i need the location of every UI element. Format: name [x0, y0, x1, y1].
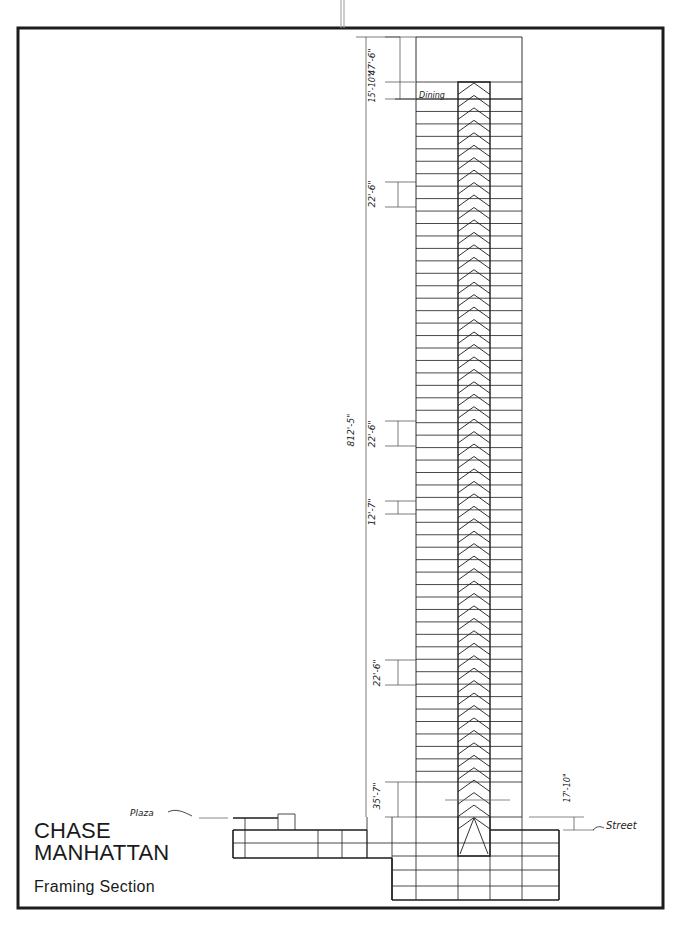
core-chevron [458, 755, 490, 766]
core-chevron [458, 444, 490, 455]
core-chevron [458, 95, 490, 106]
core-chevron [458, 631, 490, 642]
core-chevron [458, 718, 490, 729]
core-chevron [458, 195, 490, 206]
core-chevron [458, 183, 490, 194]
core-chevron [458, 668, 490, 679]
core-chevron [458, 232, 490, 243]
core-chevron [458, 593, 490, 604]
core-chevron [458, 457, 490, 468]
plaza-leader [168, 810, 192, 816]
core-chevron [458, 307, 490, 318]
core-chevron [458, 369, 490, 380]
core-chevron [458, 432, 490, 443]
street-leader [593, 827, 604, 830]
core-chevron [458, 83, 490, 94]
dim-lobby: 35'-7" [372, 782, 382, 809]
plaza-label: Plaza [130, 808, 154, 818]
dim-mech-middle: 22'-6" [367, 420, 377, 447]
core-chevron [458, 270, 490, 281]
dim-typical-floor: 12'-7" [367, 498, 377, 525]
core-chevron [458, 208, 490, 219]
dim-dining-floor: 15'-10" [368, 73, 377, 102]
core-chevron [458, 519, 490, 530]
core-chevron [458, 245, 490, 256]
dim-overall-height: 812'-5" [346, 414, 356, 447]
core-chevron [458, 257, 490, 268]
title-line-2: MANHATTAN [34, 842, 169, 864]
framing-section-drawing: Dining Plaza Street 812'-5" 47'-6" 15'-1… [0, 0, 686, 927]
title-block: CHASE MANHATTAN Framing Section [34, 820, 169, 896]
core-chevron [458, 170, 490, 181]
core-chevron [458, 295, 490, 306]
core-chevron [458, 494, 490, 505]
core-chevron [458, 108, 490, 119]
street-label: Street [606, 820, 638, 831]
core-chevron [458, 145, 490, 156]
core-chevron [458, 282, 490, 293]
dim-street-to-plaza: 17'-10" [563, 773, 572, 802]
core-chevron [458, 419, 490, 430]
dim-top-mech: 47'-6" [367, 48, 377, 75]
core-chevron [458, 120, 490, 131]
core-chevron [458, 531, 490, 542]
core-chevron [458, 618, 490, 629]
core-chevron [458, 357, 490, 368]
title-line-1: CHASE [34, 820, 169, 842]
core-chevron [458, 332, 490, 343]
core-chevron [458, 643, 490, 654]
core-chevron [458, 581, 490, 592]
core-chevron [458, 818, 490, 829]
core-chevron [458, 158, 490, 169]
core-chevron [458, 394, 490, 405]
dim-mech-upper: 22'-6" [367, 180, 377, 207]
drawing-subtitle: Framing Section [34, 878, 169, 896]
core-chevron [458, 681, 490, 692]
core-chevron [458, 569, 490, 580]
tower-section [168, 37, 604, 900]
core-chevron [458, 469, 490, 480]
core-chevron [458, 220, 490, 231]
core-chevron [458, 693, 490, 704]
dim-mech-lower: 22'-6" [372, 659, 382, 686]
core-chevron [458, 556, 490, 567]
core-chevron [458, 706, 490, 717]
core-chevron [458, 743, 490, 754]
core-chevron [458, 544, 490, 555]
core-chevron [458, 768, 490, 779]
core-chevron [458, 606, 490, 617]
core-chevron [458, 407, 490, 418]
core-chevron [458, 656, 490, 667]
dining-label: Dining [419, 91, 445, 100]
core-chevron [458, 805, 490, 816]
core-chevron [458, 344, 490, 355]
core-chevron [458, 382, 490, 393]
core-chevron [458, 506, 490, 517]
dimension-lines [356, 37, 574, 830]
core-chevron [460, 818, 488, 854]
core-chevron [458, 320, 490, 331]
core-chevron [458, 133, 490, 144]
core-chevron [458, 793, 490, 804]
core-chevron [458, 481, 490, 492]
core-chevron [458, 730, 490, 741]
